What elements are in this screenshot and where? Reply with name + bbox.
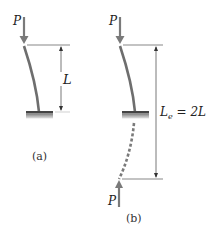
bottom-load-label-p: P	[107, 194, 117, 208]
panel-a: P L (a)	[12, 14, 72, 163]
length-label-l: L	[62, 72, 72, 87]
mirrored-column-dashed	[119, 123, 134, 179]
panel-b: P P Le = 2L (b)	[107, 14, 206, 225]
effective-length-diagram: P L (a) P	[0, 0, 209, 240]
load-label-p: P	[12, 14, 22, 28]
effective-length-label: Le = 2L	[159, 105, 206, 121]
fixed-support-icon	[122, 111, 149, 119]
column-curve	[120, 46, 135, 112]
top-load-label-p: P	[108, 14, 118, 28]
bottom-load-arrow-icon	[115, 180, 123, 207]
column-curve	[24, 46, 39, 112]
panel-a-caption: (a)	[32, 150, 47, 163]
fixed-support-icon	[26, 111, 53, 119]
panel-b-caption: (b)	[126, 212, 142, 225]
